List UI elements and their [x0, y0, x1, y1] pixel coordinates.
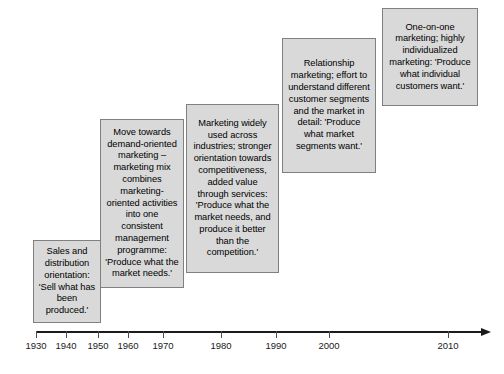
stage-box-label: Marketing widely used across industries;… [191, 118, 274, 260]
timeline-tick-label: 2010 [437, 340, 458, 351]
timeline-tick-label: 1960 [117, 340, 138, 351]
timeline-tick-label: 2000 [318, 340, 339, 351]
timeline-tick-label: 1950 [87, 340, 108, 351]
timeline-tick-mark [128, 331, 129, 338]
marketing-evolution-timeline-diagram: Sales and distribution orientation: 'Sel… [0, 0, 504, 374]
timeline-tick-mark [448, 331, 449, 338]
stage-box-label: Move towards demand-oriented marketing –… [105, 127, 179, 280]
stage-box-sales-and-distribution-orientation: Sales and distribution orientation: 'Sel… [33, 240, 101, 323]
timeline-tick-mark [276, 331, 277, 338]
timeline-tick-label: 1970 [152, 340, 173, 351]
stage-box-demand-oriented-marketing: Move towards demand-oriented marketing –… [100, 119, 184, 288]
stage-box-label: Sales and distribution orientation: 'Sel… [38, 246, 96, 317]
timeline-arrow-head-icon [481, 328, 491, 336]
stage-box-relationship-marketing: Relationship marketing; effort to unders… [282, 38, 376, 173]
timeline-tick-mark [36, 331, 37, 338]
stage-box-marketing-widely-used: Marketing widely used across industries;… [186, 104, 279, 273]
stage-box-label: One-on-one marketing; highly individuali… [387, 22, 473, 93]
stage-box-one-on-one-marketing: One-on-one marketing; highly individuali… [382, 8, 478, 106]
timeline-tick-label: 1980 [210, 340, 231, 351]
stage-box-label: Relationship marketing; effort to unders… [287, 58, 371, 152]
timeline-tick-mark [221, 331, 222, 338]
timeline-tick-mark [98, 331, 99, 338]
timeline-tick-label: 1930 [25, 340, 46, 351]
timeline-tick-mark [163, 331, 164, 338]
timeline-tick-mark [66, 331, 67, 338]
timeline-tick-mark [329, 331, 330, 338]
timeline-axis-line [36, 331, 482, 333]
timeline-tick-label: 1940 [55, 340, 76, 351]
timeline-tick-label: 1990 [265, 340, 286, 351]
